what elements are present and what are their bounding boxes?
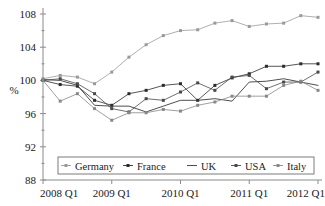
data-point xyxy=(59,83,62,86)
data-point xyxy=(145,111,148,114)
data-point xyxy=(317,71,320,74)
legend-swatch-marker xyxy=(127,164,130,167)
data-point xyxy=(42,79,45,82)
data-point xyxy=(213,89,216,92)
data-point xyxy=(265,95,268,98)
data-point xyxy=(213,84,216,87)
data-point xyxy=(213,22,216,25)
data-point xyxy=(317,89,320,92)
legend-swatch-marker xyxy=(277,164,280,167)
data-point xyxy=(196,28,199,31)
data-point xyxy=(110,107,113,110)
data-point xyxy=(162,34,165,37)
data-point xyxy=(282,22,285,25)
y-tick-label: 96 xyxy=(25,108,37,120)
legend-label: USA xyxy=(245,161,266,172)
data-point xyxy=(213,100,216,103)
data-point xyxy=(59,74,62,77)
data-point xyxy=(196,81,199,84)
y-axis-title: % xyxy=(9,84,18,96)
y-tick-label: 88 xyxy=(25,174,37,186)
data-point xyxy=(93,92,96,95)
data-point xyxy=(145,43,148,46)
chart-canvas: 8892961001041082008 Q12009 Q12010 Q12011… xyxy=(0,0,325,206)
y-tick-label: 108 xyxy=(20,8,37,20)
legend-swatch-marker xyxy=(65,164,68,167)
data-point xyxy=(196,104,199,107)
data-point xyxy=(317,16,320,19)
x-tick-label: 2012 Q1 xyxy=(287,187,325,199)
data-point xyxy=(162,84,165,87)
data-point xyxy=(76,92,79,95)
data-point xyxy=(110,71,113,74)
x-tick-label: 2009 Q1 xyxy=(93,187,131,199)
data-point xyxy=(299,62,302,65)
series-germany xyxy=(42,14,320,85)
data-point xyxy=(179,29,182,32)
legend-label: France xyxy=(137,161,166,172)
legend-label: Italy xyxy=(287,161,307,172)
y-tick-label: 104 xyxy=(20,41,37,53)
data-point xyxy=(179,91,182,94)
x-tick-label: 2008 Q1 xyxy=(40,187,78,199)
line-chart: 8892961001041082008 Q12009 Q12010 Q12011… xyxy=(0,0,325,206)
x-tick-label: 2010 Q1 xyxy=(161,187,199,199)
legend-swatch-marker xyxy=(235,164,238,167)
data-point xyxy=(127,56,130,59)
data-point xyxy=(265,65,268,68)
data-point xyxy=(179,110,182,113)
data-point xyxy=(231,95,234,98)
data-point xyxy=(162,108,165,111)
data-point xyxy=(282,81,285,84)
data-point xyxy=(265,87,268,90)
y-tick-label: 92 xyxy=(25,141,36,153)
data-point xyxy=(59,100,62,103)
legend-label: Germany xyxy=(75,161,115,172)
data-point xyxy=(76,76,79,79)
data-point xyxy=(93,82,96,85)
data-point xyxy=(179,82,182,85)
legend-label: UK xyxy=(201,161,217,172)
data-point xyxy=(265,22,268,25)
data-point xyxy=(231,19,234,22)
data-point xyxy=(248,95,251,98)
series-line-germany xyxy=(43,16,318,84)
data-point xyxy=(127,92,130,95)
data-point xyxy=(145,89,148,92)
data-point xyxy=(59,77,62,80)
data-point xyxy=(282,84,285,87)
data-point xyxy=(76,82,79,85)
data-point xyxy=(282,65,285,68)
data-point xyxy=(317,62,320,65)
data-point xyxy=(127,111,130,114)
data-point xyxy=(248,25,251,28)
data-point xyxy=(110,119,113,122)
data-point xyxy=(162,99,165,102)
x-tick-label: 2011 Q1 xyxy=(230,187,268,199)
data-point xyxy=(248,74,251,77)
data-point xyxy=(145,97,148,100)
data-point xyxy=(299,14,302,17)
y-tick-label: 100 xyxy=(20,74,37,86)
data-point xyxy=(231,76,234,79)
data-point xyxy=(93,107,96,110)
data-point xyxy=(93,99,96,102)
data-point xyxy=(299,80,302,83)
